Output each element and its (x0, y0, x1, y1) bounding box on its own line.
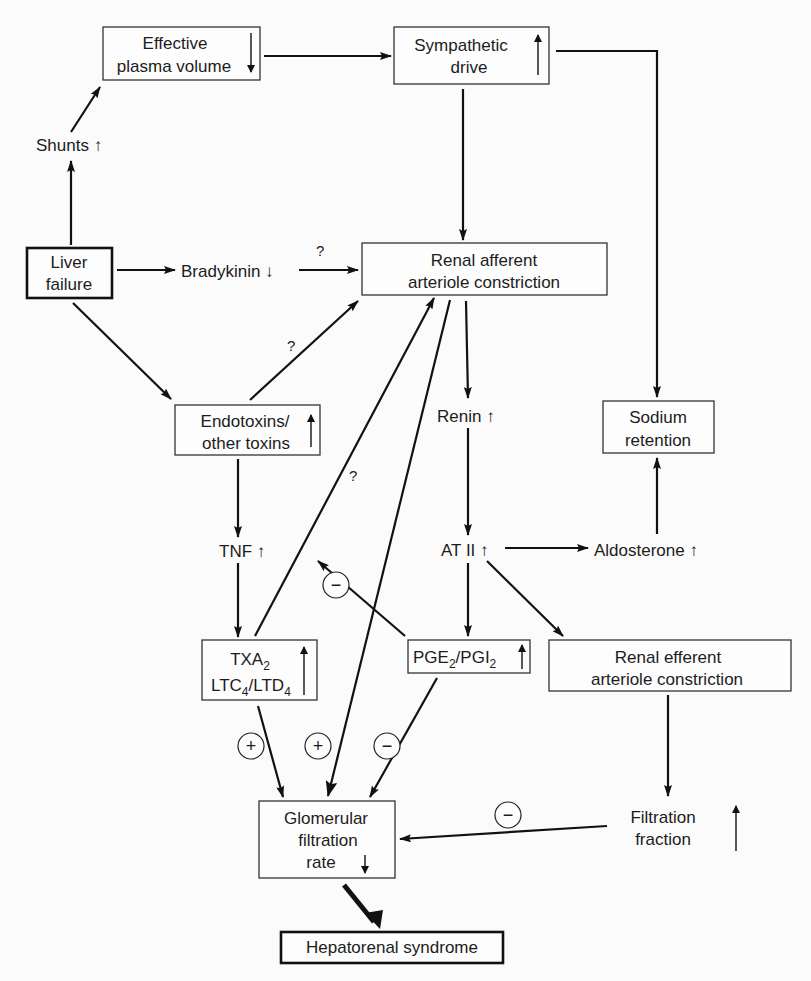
sodium-retention-line2: retention (625, 431, 691, 450)
svg-text:+: + (313, 736, 324, 756)
renal-afferent-line2: arteriole constriction (408, 273, 560, 292)
arrow-afferent-to-gfr (328, 300, 450, 796)
edges (71, 51, 668, 929)
minus-circle-pge2-gfr: − (374, 733, 400, 759)
node-endotoxins: Endotoxins/ other toxins (175, 405, 320, 455)
plus-circle-afferent-gfr: + (305, 733, 331, 759)
node-effective-plasma-volume: Effective plasma volume (103, 27, 260, 80)
arrow-filtration-to-gfr (400, 826, 607, 839)
liver-failure-line2: failure (46, 275, 92, 294)
minus-circle-filtration-gfr: − (495, 802, 521, 828)
node-sympathetic-drive: Sympathetic drive (394, 27, 549, 84)
shunts-label: Shunts ↑ (36, 136, 102, 155)
arrow-gfr-to-hepatorenal-head (365, 910, 383, 929)
annotations: ? ? ? − + + − − (238, 242, 521, 828)
at2-label: AT II ↑ (441, 541, 489, 560)
arrow-liver-to-endotoxins (73, 303, 171, 399)
arrow-afferent-to-renin (466, 301, 468, 398)
arrow-at2-to-efferent (487, 561, 563, 636)
minus-circle-pge2-tnf: − (323, 572, 349, 598)
hepatorenal-label: Hepatorenal syndrome (306, 938, 478, 957)
sodium-retention-line1: Sodium (629, 408, 687, 427)
plus-circle-txa2-gfr: + (238, 733, 264, 759)
renin-label: Renin ↑ (437, 407, 495, 426)
renal-efferent-line2: arteriole constriction (591, 670, 743, 689)
node-sodium-retention: Sodium retention (603, 401, 714, 453)
filtration-fraction-line1: Filtration (630, 808, 695, 827)
renal-efferent-line1: Renal efferent (615, 648, 722, 667)
node-renal-afferent: Renal afferent arteriole constriction (362, 243, 607, 295)
aldosterone-label: Aldosterone ↑ (594, 541, 698, 560)
effective-plasma-volume-line1: Effective (143, 34, 208, 53)
endotoxins-line1: Endotoxins/ (201, 412, 290, 431)
arrow-sympathetic-to-sodium (556, 51, 657, 397)
node-filtration-fraction: Filtration fraction (630, 806, 736, 851)
node-renal-efferent: Renal efferent arteriole constriction (549, 640, 791, 691)
filtration-fraction-line2: fraction (635, 830, 691, 849)
sympathetic-drive-line1: Sympathetic (414, 36, 508, 55)
sympathetic-drive-line2: drive (451, 58, 488, 77)
question-mark-endotoxins: ? (287, 337, 295, 354)
svg-text:−: − (503, 805, 514, 825)
arrow-endotoxins-to-afferent (250, 301, 358, 400)
question-mark-txa2: ? (349, 467, 357, 484)
gfr-line3: rate (306, 853, 335, 872)
tnf-label: TNF ↑ (219, 542, 265, 561)
gfr-line2: filtration (298, 831, 358, 850)
gfr-line1: Glomerular (284, 809, 368, 828)
arrow-shunts-to-epv (71, 87, 100, 132)
node-glomerular-filtration-rate: Glomerular filtration rate (259, 801, 395, 878)
hepatorenal-pathway-diagram: Effective plasma volume Sympathetic driv… (0, 0, 811, 981)
effective-plasma-volume-line2: plasma volume (117, 57, 231, 76)
node-pge2-pgi2: PGE2/PGI2 (408, 640, 530, 673)
liver-failure-line1: Liver (51, 253, 88, 272)
svg-text:+: + (246, 736, 257, 756)
node-hepatorenal-syndrome: Hepatorenal syndrome (281, 932, 503, 963)
bradykinin-label: Bradykinin ↓ (181, 262, 274, 281)
node-liver-failure: Liver failure (27, 248, 112, 298)
endotoxins-line2: other toxins (202, 434, 290, 453)
node-txa2-ltc4-ltd4: TXA2 LTC4/LTD4 (202, 640, 317, 700)
renal-afferent-line1: Renal afferent (431, 251, 538, 270)
svg-text:−: − (382, 736, 393, 756)
svg-text:−: − (331, 575, 342, 595)
arrow-pge2-inhibits-tnf (318, 561, 405, 636)
question-mark-bradykinin: ? (316, 242, 324, 259)
